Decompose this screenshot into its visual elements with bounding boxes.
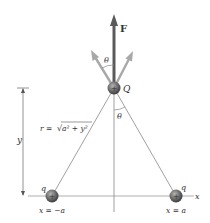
charge-sign: +	[173, 192, 180, 201]
x-axis-label: x	[195, 192, 200, 201]
coulomb-force-diagram: + + + F θ Q θ r = √ a² + y² y x q q x = …	[0, 0, 210, 223]
distance-label-body: a² + y²	[62, 124, 88, 133]
angle-bottom-label: θ	[117, 112, 122, 121]
distance-line-left	[52, 88, 114, 196]
distance-label-r: r =	[40, 124, 52, 133]
right-charge-label: q	[181, 183, 186, 192]
left-position-label: x = −a	[39, 206, 65, 215]
height-label: y	[16, 135, 23, 145]
charge-Q: +	[108, 82, 121, 95]
right-position-label: x = a	[166, 206, 186, 215]
force-label: F	[120, 23, 127, 34]
distance-line-right	[114, 88, 176, 196]
angle-arc-bottom	[114, 107, 125, 110]
angle-arc-top	[102, 65, 114, 68]
charge-Q-label: Q	[123, 84, 131, 94]
component-arrow-left	[91, 50, 114, 88]
charge-q-left: +	[46, 190, 59, 203]
distance-label: r = √ a² + y²	[40, 122, 92, 133]
charge-sign: +	[111, 84, 118, 93]
angle-top-label: θ	[104, 56, 109, 65]
left-charge-label: q	[41, 184, 46, 193]
charge-sign: +	[49, 192, 56, 201]
force-arrow	[110, 14, 118, 88]
